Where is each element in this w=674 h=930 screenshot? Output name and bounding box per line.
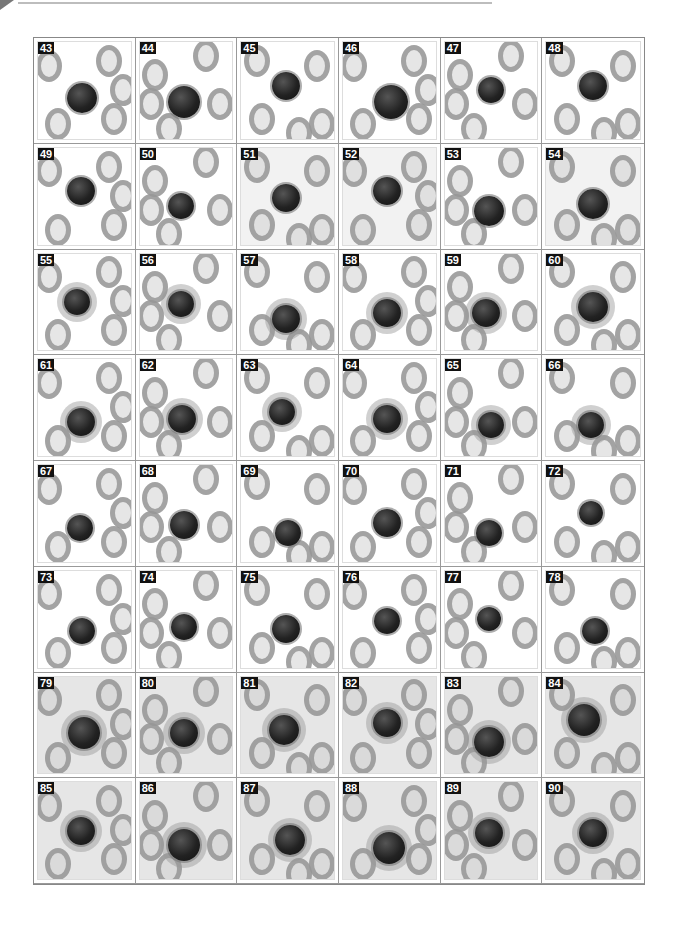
red-blood-cell [415, 391, 436, 423]
panel-number-label: 81 [241, 677, 257, 689]
micrograph-panel: 88 [339, 778, 441, 884]
micrograph-panel: 62 [136, 355, 238, 461]
panel-image: 67 [37, 464, 132, 563]
lymphocyte-nucleus [67, 817, 95, 845]
lymphocyte-nucleus [168, 829, 200, 861]
panel-number-label: 47 [445, 42, 461, 54]
panel-image: 50 [139, 147, 234, 246]
micrograph-panel: 81 [237, 673, 339, 779]
panel-image: 60 [545, 253, 641, 352]
micrograph-panel: 82 [339, 673, 441, 779]
red-blood-cell [309, 425, 335, 457]
red-blood-cell [444, 617, 469, 649]
red-blood-cell [37, 50, 62, 82]
panel-image: 86 [139, 781, 234, 880]
red-blood-cell [512, 829, 538, 861]
lymphocyte-nucleus [578, 189, 608, 219]
red-blood-cell [406, 103, 432, 135]
red-blood-cell [309, 742, 335, 774]
red-blood-cell [142, 377, 168, 409]
panel-image: 64 [342, 358, 437, 457]
page-corner-mark [0, 0, 14, 10]
panel-number-label: 77 [445, 571, 461, 583]
micrograph-panel: 77 [441, 567, 543, 673]
red-blood-cell [415, 497, 436, 529]
micrograph-panel: 61 [34, 355, 136, 461]
micrograph-panel: 52 [339, 144, 441, 250]
red-blood-cell [110, 285, 131, 317]
lymphocyte-nucleus [478, 412, 504, 438]
panel-number-label: 80 [140, 677, 156, 689]
red-blood-cell [350, 637, 376, 669]
micrograph-panel: 72 [542, 461, 644, 567]
red-blood-cell [415, 708, 436, 740]
lymphocyte-nucleus [272, 184, 300, 212]
red-blood-cell [610, 684, 636, 716]
panel-image: 72 [545, 464, 641, 563]
red-blood-cell [309, 848, 335, 880]
red-blood-cell [554, 103, 580, 135]
red-blood-cell [110, 603, 131, 635]
panel-image: 85 [37, 781, 132, 880]
panel-image: 87 [240, 781, 335, 880]
red-blood-cell [101, 209, 127, 241]
micrograph-panel: 60 [542, 250, 644, 356]
red-blood-cell [45, 637, 71, 669]
red-blood-cell [142, 800, 168, 832]
red-blood-cell [37, 473, 62, 505]
panel-image: 49 [37, 147, 132, 246]
panel-image: 54 [545, 147, 641, 246]
panel-number-label: 74 [140, 571, 156, 583]
lymphocyte-nucleus [578, 292, 608, 322]
panel-number-label: 59 [445, 254, 461, 266]
panel-number-label: 56 [140, 254, 156, 266]
panel-number-label: 79 [38, 677, 54, 689]
red-blood-cell [249, 632, 275, 664]
panel-number-label: 87 [241, 782, 257, 794]
micrograph-panel: 70 [339, 461, 441, 567]
red-blood-cell [415, 285, 436, 317]
panel-image: 51 [240, 147, 335, 246]
red-blood-cell [101, 632, 127, 664]
lymphocyte-nucleus [582, 618, 608, 644]
red-blood-cell [615, 108, 641, 140]
red-blood-cell [406, 420, 432, 452]
panel-number-label: 62 [140, 359, 156, 371]
red-blood-cell [415, 814, 436, 846]
red-blood-cell [110, 708, 131, 740]
panel-number-label: 63 [241, 359, 257, 371]
red-blood-cell [309, 214, 335, 246]
panel-image: 83 [444, 676, 539, 775]
micrograph-panel: 43 [34, 38, 136, 144]
header-rule [18, 2, 492, 4]
panel-number-label: 50 [140, 148, 156, 160]
red-blood-cell [156, 641, 182, 668]
lymphocyte-nucleus [168, 193, 194, 219]
red-blood-cell [207, 829, 233, 861]
red-blood-cell [401, 151, 427, 183]
red-blood-cell [461, 641, 487, 668]
red-blood-cell [139, 723, 164, 755]
lymphocyte-nucleus [67, 515, 93, 541]
red-blood-cell [110, 391, 131, 423]
panel-number-label: 73 [38, 571, 54, 583]
red-blood-cell [615, 214, 641, 246]
lymphocyte-nucleus [272, 615, 300, 643]
red-blood-cell [193, 676, 219, 707]
panel-image: 84 [545, 676, 641, 775]
panel-number-label: 52 [343, 148, 359, 160]
red-blood-cell [96, 151, 122, 183]
red-blood-cell [249, 103, 275, 135]
panel-image: 52 [342, 147, 437, 246]
panel-number-label: 44 [140, 42, 156, 54]
panel-image: 53 [444, 147, 539, 246]
micrograph-panel: 87 [237, 778, 339, 884]
panel-number-label: 60 [546, 254, 562, 266]
panel-number-label: 67 [38, 465, 54, 477]
red-blood-cell [554, 632, 580, 664]
red-blood-cell [139, 194, 164, 226]
micrograph-panel: 85 [34, 778, 136, 884]
red-blood-cell [444, 723, 469, 755]
lymphocyte-nucleus [272, 305, 300, 333]
lymphocyte-nucleus [275, 520, 301, 546]
